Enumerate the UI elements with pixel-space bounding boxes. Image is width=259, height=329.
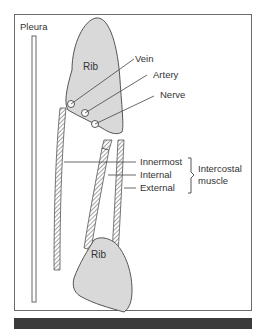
brace-icon <box>188 158 194 193</box>
lower-rib-label: Rib <box>91 249 106 260</box>
external-label: External <box>140 182 175 193</box>
innermost-muscle <box>54 108 66 270</box>
group-label-line2: muscle <box>198 175 228 186</box>
upper-rib <box>66 18 123 134</box>
upper-rib-label: Rib <box>83 61 98 72</box>
internal-label: Internal <box>140 169 172 180</box>
vein-label: Vein <box>135 53 154 64</box>
innermost-label: Innermost <box>140 156 183 167</box>
nerve-label: Nerve <box>160 89 185 100</box>
external-muscle <box>112 140 124 254</box>
pleura-layer <box>32 36 36 302</box>
pleura-label: Pleura <box>20 21 48 32</box>
internal-muscle <box>84 148 109 250</box>
intercostal-diagram: Pleura Rib Rib Vein Artery Nerve Innermo… <box>0 0 259 329</box>
artery-label: Artery <box>153 69 179 80</box>
group-label-line1: Intercostal <box>198 163 242 174</box>
